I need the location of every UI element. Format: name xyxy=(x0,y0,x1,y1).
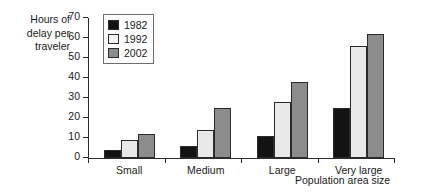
x-axis-category-label: Small xyxy=(89,164,169,177)
bar-chart-figure: Hours of delay per traveler 706050403020… xyxy=(0,0,437,195)
y-axis-tick-label: 30 xyxy=(68,90,80,103)
bar xyxy=(333,108,350,158)
x-axis-title: Population area size xyxy=(295,174,390,187)
bar xyxy=(138,134,155,158)
x-axis-tick xyxy=(241,158,242,163)
legend-item: 1992 xyxy=(108,32,147,46)
y-axis-tick-label: 0 xyxy=(74,150,80,163)
y-axis-tick-label: 70 xyxy=(68,10,80,23)
y-axis-tick-label: 60 xyxy=(68,30,80,43)
bar xyxy=(214,108,231,158)
legend-swatch-icon xyxy=(108,48,119,58)
y-axis-tick: 20 xyxy=(83,117,88,118)
legend-label: 1982 xyxy=(124,19,147,31)
bar xyxy=(180,146,197,158)
y-axis-line xyxy=(88,18,89,158)
bar xyxy=(291,82,308,158)
legend-swatch-icon xyxy=(108,34,119,44)
y-axis-tick: 10 xyxy=(83,137,88,138)
bar xyxy=(257,136,274,158)
y-axis-tick-label: 40 xyxy=(68,70,80,83)
bar xyxy=(274,102,291,158)
legend-item: 1982 xyxy=(108,18,147,32)
legend-swatch-icon xyxy=(108,20,119,30)
bar-group xyxy=(180,18,231,158)
x-axis-tick xyxy=(165,158,166,163)
y-axis-title: Hours of delay per traveler xyxy=(4,13,70,54)
bar xyxy=(121,140,138,158)
y-axis-tick: 60 xyxy=(83,37,88,38)
legend-label: 2002 xyxy=(124,47,147,59)
y-axis-tick: 30 xyxy=(83,97,88,98)
x-axis-tick xyxy=(394,158,395,163)
y-axis-tick-label: 20 xyxy=(68,110,80,123)
x-axis-tick xyxy=(318,158,319,163)
y-axis-tick: 50 xyxy=(83,57,88,58)
chart-legend: 198219922002 xyxy=(103,14,154,64)
y-axis-tick: 70 xyxy=(83,17,88,18)
y-axis-tick: 40 xyxy=(83,77,88,78)
y-axis-tick-label: 10 xyxy=(68,130,80,143)
bar-group xyxy=(257,18,308,158)
bar xyxy=(367,34,384,158)
legend-item: 2002 xyxy=(108,46,147,60)
x-axis-category-label: Medium xyxy=(166,164,246,177)
bar xyxy=(104,150,121,158)
legend-label: 1992 xyxy=(124,33,147,45)
bar xyxy=(350,46,367,158)
bar-group xyxy=(333,18,384,158)
y-axis-tick-label: 50 xyxy=(68,50,80,63)
x-axis-tick xyxy=(88,158,89,163)
bar xyxy=(197,130,214,158)
